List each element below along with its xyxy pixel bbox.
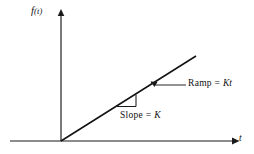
- y-axis-label-argument: (t): [34, 6, 42, 16]
- figure-canvas: [0, 0, 254, 154]
- y-axis-label: f(t): [31, 6, 42, 17]
- slope-annotation: Slope = K: [120, 111, 161, 121]
- ramp-function-figure: f(t) t Ramp = Kt Slope = K: [0, 0, 254, 154]
- ramp-annotation-math: Kt: [223, 78, 232, 88]
- slope-annotation-math: K: [154, 110, 160, 120]
- ramp-annotation-text: Ramp =: [188, 78, 223, 88]
- slope-annotation-text: Slope =: [120, 110, 154, 120]
- y-axis-arrowhead-icon: [58, 9, 65, 16]
- x-axis-label: t: [239, 134, 242, 144]
- ramp-line: [61, 56, 196, 141]
- ramp-annotation: Ramp = Kt: [188, 79, 232, 89]
